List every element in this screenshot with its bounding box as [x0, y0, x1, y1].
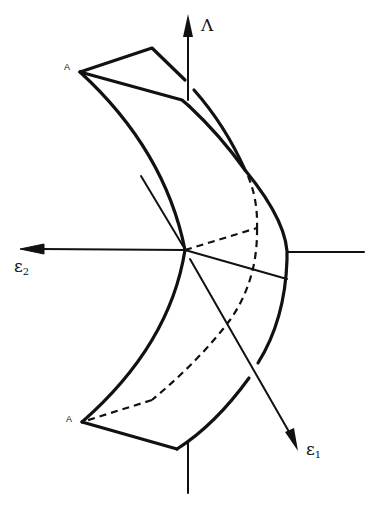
- epsilon2-subscript: 2: [23, 266, 29, 277]
- diagram-canvas: [0, 0, 377, 507]
- epsilon1-symbol: ε: [306, 439, 315, 459]
- epsilon2-arrowhead-icon: [20, 244, 44, 254]
- epsilon2-symbol: ε: [14, 256, 23, 276]
- lambda-arrowhead-icon: [183, 14, 193, 37]
- epsilon2-label: ε2: [14, 258, 29, 277]
- lambda-symbol: Λ: [201, 15, 213, 35]
- point-a-top-label: A: [64, 63, 70, 72]
- point-a-bottom-label: A: [66, 415, 72, 424]
- epsilon1-subscript: 1: [315, 449, 321, 460]
- epsilon1-label: ε1: [306, 441, 321, 460]
- hidden-edges: [82, 176, 257, 422]
- lambda-label: Λ: [201, 17, 213, 34]
- epsilon1-arrowhead-icon: [285, 428, 298, 451]
